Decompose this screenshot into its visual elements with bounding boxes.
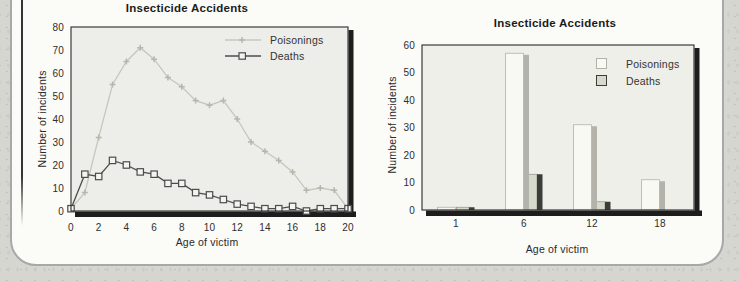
figure-panel <box>10 0 724 266</box>
scan-artifact-line <box>21 0 23 226</box>
scanned-page: Insecticide Accidents Number of incident… <box>0 0 739 282</box>
